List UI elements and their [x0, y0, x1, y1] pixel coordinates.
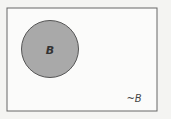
set-b-label: B	[46, 44, 54, 57]
venn-diagram: B ~B	[0, 0, 171, 119]
complement-label: ~B	[126, 93, 141, 104]
